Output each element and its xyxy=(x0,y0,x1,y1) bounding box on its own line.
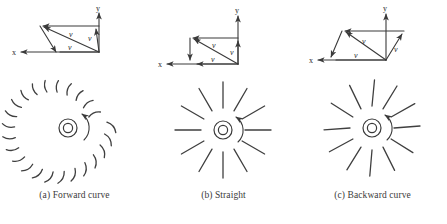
velocity-label-resultant: v xyxy=(69,30,73,39)
panel-caption-a: (a) Forward curve xyxy=(0,190,149,200)
x-axis-label: x xyxy=(12,48,16,57)
fan-blade-types-figure: y x v v v xyxy=(0,0,447,224)
y-axis-label: y xyxy=(235,6,239,15)
hub-inner-circle xyxy=(367,123,376,132)
velocity-left-edge xyxy=(331,31,342,57)
hub-inner-circle xyxy=(63,123,72,132)
impeller-b xyxy=(175,82,271,178)
velocity-label-axial: v xyxy=(354,51,358,60)
blade-ring xyxy=(2,81,115,184)
velocity-diagram-c: y x v v v xyxy=(309,4,404,65)
panel-straight: y x v v v xyxy=(149,0,298,224)
backward-curve-diagram: y x v v v xyxy=(298,0,447,190)
panel-caption-b: (b) Straight xyxy=(149,190,298,200)
impeller-a xyxy=(2,81,115,184)
panel-caption-c: (c) Backward curve xyxy=(298,190,447,200)
blade-ring xyxy=(324,80,420,176)
velocity-label-resultant: v xyxy=(362,37,366,46)
panel-forward-curve: y x v v v xyxy=(0,0,149,224)
y-axis-label: y xyxy=(383,4,387,13)
y-axis-label: y xyxy=(96,4,100,13)
hub-inner-circle xyxy=(218,125,227,134)
impeller-c xyxy=(324,80,420,176)
velocity-label-tip: v xyxy=(88,34,92,43)
hub-outer-circle xyxy=(363,119,381,137)
velocity-diagram-b: y x v v v xyxy=(158,6,239,69)
velocity-left-edge xyxy=(40,26,56,52)
blade-ring xyxy=(175,82,271,178)
x-axis-label: x xyxy=(158,60,162,69)
x-axis-label: x xyxy=(309,56,313,65)
velocity-label-axial: v xyxy=(68,43,72,52)
velocity-resultant xyxy=(346,32,386,60)
rotation-arrow xyxy=(385,115,392,140)
hub-outer-circle xyxy=(59,119,77,137)
forward-curve-diagram: y x v v v xyxy=(0,0,149,190)
velocity-label-tip: v xyxy=(394,45,398,54)
velocity-label-axial: v xyxy=(211,55,215,64)
velocity-label-tip: v xyxy=(230,48,234,57)
hub-outer-circle xyxy=(214,121,232,139)
panel-backward-curve: y x v v v xyxy=(298,0,447,224)
straight-blade-diagram: y x v v v xyxy=(149,0,298,190)
velocity-label-resultant: v xyxy=(212,41,216,50)
rotation-arrow xyxy=(82,114,89,140)
velocity-diagram-a: y x v v v xyxy=(12,4,100,57)
rotation-arrow xyxy=(236,117,243,142)
